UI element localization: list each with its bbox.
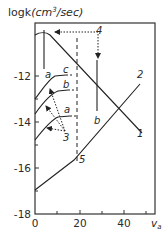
- svg-text:-18: -18: [14, 208, 31, 220]
- x-axis-title: va: [151, 217, 162, 231]
- svg-text:20: 20: [73, 217, 86, 229]
- svg-text:-12: -12: [14, 70, 31, 82]
- chart: logk(cm3/sec) -12 -14 -16 -18 0 20 40 va: [0, 0, 168, 245]
- svg-text:b: b: [94, 115, 100, 126]
- svg-text:c: c: [63, 64, 69, 75]
- y-tick-labels: -12 -14 -16 -18: [14, 70, 31, 220]
- svg-text:40: 40: [117, 217, 130, 229]
- svg-text:b: b: [63, 79, 69, 90]
- svg-text:2: 2: [137, 69, 143, 80]
- svg-text:1: 1: [137, 128, 143, 139]
- svg-text:4: 4: [96, 25, 102, 36]
- svg-text:3: 3: [63, 132, 69, 143]
- curve-2: [35, 84, 140, 190]
- x-ticks: [57, 210, 146, 214]
- y-axis-title: logk(cm3/sec): [8, 6, 83, 19]
- svg-text:5: 5: [79, 154, 85, 165]
- curve-1: [35, 33, 142, 133]
- x-tick-labels: 0 20 40: [32, 217, 131, 229]
- svg-text:0: 0: [32, 217, 39, 229]
- svg-text:-16: -16: [14, 162, 31, 174]
- svg-text:a: a: [45, 69, 51, 80]
- svg-text:-14: -14: [14, 116, 31, 128]
- svg-text:a: a: [64, 104, 70, 115]
